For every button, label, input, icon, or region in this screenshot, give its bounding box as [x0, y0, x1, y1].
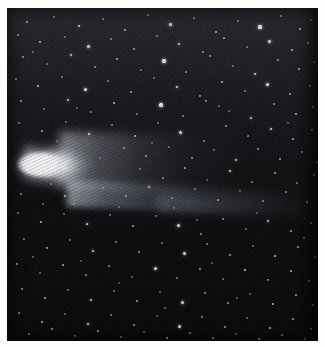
star-point — [63, 213, 65, 215]
star-point — [217, 199, 220, 202]
star-point — [136, 300, 138, 302]
star-point — [222, 218, 224, 220]
star-point — [215, 31, 217, 33]
star-point — [227, 302, 229, 304]
star-point — [157, 122, 159, 124]
comet-nucleus — [16, 151, 84, 178]
comet-tail-lower-streamer — [67, 180, 313, 217]
star-point — [156, 35, 158, 37]
star-point — [133, 324, 135, 326]
star-point — [301, 151, 303, 153]
star-point — [211, 262, 213, 264]
star-point — [280, 15, 282, 17]
star-point — [113, 102, 116, 105]
star-point — [46, 247, 49, 250]
star-point — [285, 191, 287, 193]
star-point — [102, 18, 104, 20]
film-grain-texture — [7, 8, 318, 341]
star-point — [244, 269, 247, 272]
star-point — [109, 214, 111, 216]
star-point — [161, 242, 163, 244]
star-point — [28, 333, 30, 335]
star-point — [237, 20, 239, 22]
star-point — [311, 129, 313, 131]
star-point — [267, 220, 270, 223]
star-point — [306, 201, 308, 203]
star-point — [232, 65, 234, 67]
star-point — [295, 294, 297, 296]
star-point — [292, 318, 294, 320]
star-point — [73, 203, 75, 205]
star-point — [132, 225, 134, 227]
star-field — [7, 8, 318, 341]
star-point — [78, 25, 81, 28]
star-point — [213, 149, 215, 151]
star-point — [110, 314, 112, 316]
star-point — [67, 99, 70, 102]
star-point — [225, 125, 227, 127]
star-point — [131, 276, 133, 278]
star-point — [110, 38, 112, 40]
star-point — [236, 297, 238, 299]
star-point — [20, 100, 22, 102]
star-point — [181, 301, 184, 304]
star-point — [32, 51, 34, 53]
star-point — [250, 117, 253, 120]
star-point — [292, 138, 294, 140]
star-point — [97, 330, 100, 333]
star-point — [118, 282, 120, 284]
star-point — [221, 81, 223, 83]
star-point — [39, 41, 42, 44]
star-point — [205, 100, 207, 102]
star-point — [94, 66, 96, 68]
star-point — [270, 128, 273, 131]
star-point — [178, 43, 181, 46]
star-point — [183, 252, 186, 255]
star-point — [235, 159, 238, 162]
star-point — [148, 186, 151, 189]
star-point — [41, 321, 44, 324]
star-point — [257, 148, 259, 150]
star-point — [168, 146, 170, 148]
star-point — [90, 111, 92, 113]
star-point — [316, 161, 318, 163]
star-point — [304, 338, 306, 340]
star-point — [70, 54, 73, 57]
sky-gradient-lower — [7, 175, 318, 342]
star-point — [22, 56, 24, 58]
star-point — [92, 250, 95, 253]
star-point — [269, 327, 272, 330]
star-point — [136, 113, 138, 115]
star-point — [295, 113, 298, 116]
star-point — [61, 76, 63, 78]
star-point — [133, 48, 135, 50]
star-point — [16, 263, 18, 265]
star-point — [212, 337, 214, 339]
star-point — [53, 16, 55, 18]
star-point — [90, 299, 93, 302]
star-point — [130, 91, 132, 93]
star-point — [39, 272, 41, 274]
star-point — [203, 140, 205, 142]
star-point — [102, 187, 104, 189]
star-point — [274, 172, 276, 174]
star-point — [116, 58, 119, 61]
star-point — [151, 142, 153, 144]
star-point — [87, 45, 90, 48]
star-point — [17, 34, 19, 36]
star-point — [139, 168, 141, 170]
star-point — [202, 51, 204, 53]
star-point — [218, 105, 220, 107]
star-point — [159, 103, 162, 106]
star-point — [229, 170, 232, 173]
star-point — [246, 317, 248, 319]
star-point — [229, 254, 231, 256]
star-point — [40, 221, 43, 224]
star-point — [120, 336, 122, 338]
star-point — [239, 190, 241, 192]
star-point — [176, 86, 179, 89]
star-point — [184, 167, 187, 170]
star-point — [244, 90, 246, 92]
comet-coma — [9, 139, 113, 191]
star-point — [153, 77, 155, 79]
